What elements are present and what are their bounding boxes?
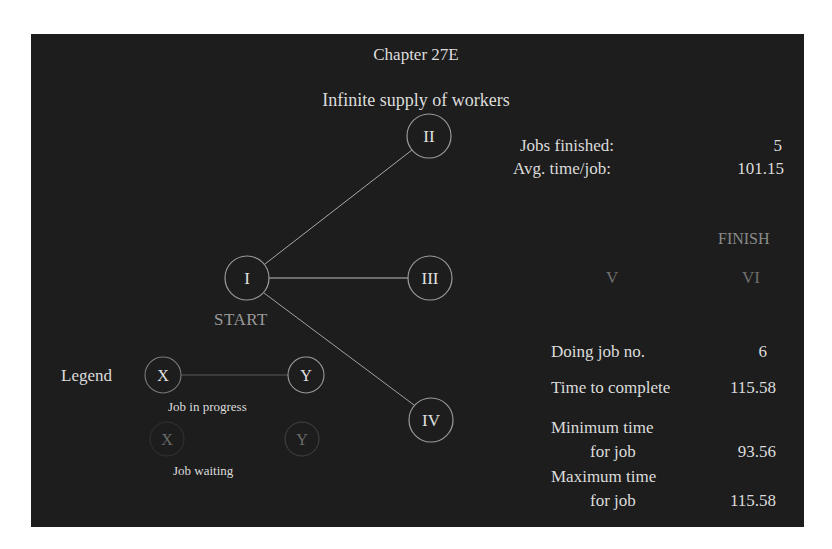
legend-node-y-active: Y [288, 357, 324, 393]
legend-x-label: X [157, 367, 169, 384]
node-I-label: I [244, 269, 250, 288]
start-label: START [214, 310, 268, 330]
legend-y-waiting-label: Y [296, 431, 308, 448]
max-time-label-line2: for job [590, 491, 636, 511]
doing-job-label: Doing job no. [551, 342, 645, 362]
time-to-complete-label: Time to complete [551, 378, 670, 398]
min-time-label-line2: for job [590, 442, 636, 462]
time-to-complete-value: 115.58 [696, 378, 776, 398]
legend-waiting-label: Job waiting [173, 463, 233, 479]
max-time-value: 115.58 [696, 491, 776, 511]
node-III-label: III [422, 269, 439, 288]
node-II-label: II [423, 127, 435, 146]
node-I: I [225, 256, 269, 300]
legend-node-x-waiting: X [150, 422, 184, 456]
doing-job-value: 6 [707, 342, 767, 362]
legend-title: Legend [61, 366, 112, 386]
chapter-title: Chapter 27E [0, 45, 832, 65]
legend-x-waiting-label: X [161, 431, 173, 448]
diagram-subtitle: Infinite supply of workers [0, 90, 832, 111]
max-time-label-line1: Maximum time [551, 467, 656, 487]
edge-I-II [265, 150, 412, 264]
avg-time-label: Avg. time/job: [513, 159, 611, 179]
min-time-label-line1: Minimum time [551, 418, 653, 438]
legend-node-x-active: X [145, 357, 181, 393]
min-time-value: 93.56 [696, 442, 776, 462]
node-II: II [407, 114, 451, 158]
legend-y-label: Y [300, 367, 312, 384]
edge-I-IV [264, 293, 414, 405]
node-IV-label: IV [422, 411, 441, 430]
legend-in-progress-label: Job in progress [168, 399, 247, 415]
legend-node-y-waiting: Y [285, 422, 319, 456]
jobs-finished-label: Jobs finished: [520, 136, 614, 156]
node-VI-label: VI [742, 268, 760, 288]
jobs-finished-value: 5 [702, 136, 782, 156]
network-diagram: I II III IV X Y X Y [0, 0, 832, 549]
avg-time-value: 101.15 [704, 159, 784, 179]
node-III: III [408, 256, 452, 300]
node-V-label: V [606, 268, 618, 288]
finish-label: FINISH [718, 230, 770, 248]
node-IV: IV [409, 398, 453, 442]
